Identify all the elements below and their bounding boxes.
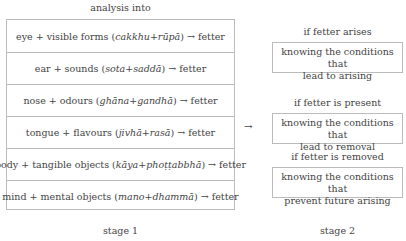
row-result: ) → fetter [171, 127, 216, 138]
stage2-footer: stage 2 [272, 225, 403, 236]
pali-term: gandhā [137, 95, 173, 106]
box-line: knowing the conditions that [273, 171, 402, 195]
row-result: ) → fetter [162, 63, 207, 74]
pali-term: phoṭṭabbhā [146, 159, 201, 170]
plus: + [129, 95, 137, 106]
plus: + [138, 159, 146, 170]
row-text: tongue + flavours ( [26, 127, 119, 138]
stage1-heading: analysis into [6, 2, 235, 13]
condition-label: if fetter is present [272, 97, 403, 108]
row-result: ) → fetter [173, 95, 218, 106]
row-text: eye + visible forms ( [16, 31, 115, 42]
condition-label: if fetter arises [272, 26, 403, 37]
stage1-box: eye + visible forms (cakkhu + rūpā) → fe… [6, 19, 235, 210]
row-result: ) → fetter [194, 191, 239, 202]
box-line: lead to arising [273, 70, 402, 82]
sense-row-nose: nose + odours (ghāna + gandhā) → fetter [7, 84, 234, 116]
pali-term: dhammā [152, 191, 194, 202]
row-result: ) → fetter [201, 159, 246, 170]
pali-term: ghāna [100, 95, 130, 106]
stage2-box-arising: knowing the conditions that lead to aris… [272, 42, 403, 73]
stage2-box-present: knowing the conditions that lead to remo… [272, 113, 403, 144]
pali-term: jivhā [119, 127, 142, 138]
pali-term: sota [105, 63, 125, 74]
box-line: knowing the conditions that [273, 46, 402, 70]
row-text: ear + sounds ( [35, 63, 105, 74]
stage1-footer: stage 1 [6, 225, 235, 236]
row-text: nose + odours ( [23, 95, 99, 106]
pali-term: kāya [116, 159, 138, 170]
row-text: body + tangible objects ( [0, 159, 116, 170]
pali-term: rūpā [158, 31, 180, 42]
sense-row-body: body + tangible objects (kāya + phoṭṭabb… [7, 148, 234, 180]
plus: + [125, 63, 133, 74]
sense-row-eye: eye + visible forms (cakkhu + rūpā) → fe… [7, 20, 234, 52]
pali-term: rasā [150, 127, 171, 138]
plus: + [150, 31, 158, 42]
condition-label: if fetter is removed [272, 151, 403, 162]
pali-term: mano [118, 191, 145, 202]
pali-term: saddā [133, 63, 161, 74]
sense-row-tongue: tongue + flavours (jivhā + rasā) → fette… [7, 116, 234, 148]
row-result: ) → fetter [180, 31, 225, 42]
sense-row-mind: mind + mental objects (mano + dhammā) → … [7, 180, 234, 212]
box-line: prevent future arising [273, 195, 402, 207]
right-arrow-icon: → [244, 121, 252, 132]
pali-term: cakkhu [115, 31, 150, 42]
box-line: knowing the conditions that [273, 117, 402, 141]
stage2-box-removed: knowing the conditions that prevent futu… [272, 167, 403, 198]
plus: + [142, 127, 150, 138]
plus: + [145, 191, 153, 202]
row-text: mind + mental objects ( [2, 191, 118, 202]
sense-row-ear: ear + sounds (sota + saddā) → fetter [7, 52, 234, 84]
